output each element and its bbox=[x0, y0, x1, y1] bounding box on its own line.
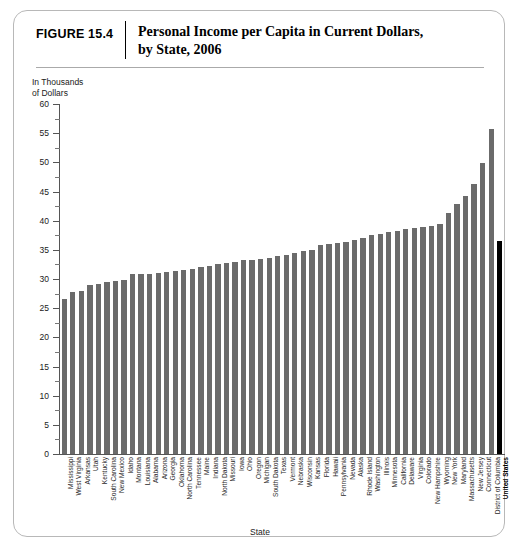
bar bbox=[463, 196, 468, 454]
bar bbox=[378, 234, 383, 455]
x-tick-label: Oklahoma bbox=[178, 457, 185, 487]
x-tick-label: Kentucky bbox=[101, 457, 108, 484]
bar bbox=[309, 250, 314, 454]
bar bbox=[497, 241, 502, 454]
y-tick-major bbox=[53, 308, 60, 309]
bar bbox=[403, 229, 408, 454]
bar bbox=[335, 243, 340, 454]
y-tick-major bbox=[53, 425, 60, 426]
x-tick-label: Colorado bbox=[425, 457, 432, 484]
bar bbox=[181, 270, 186, 454]
y-tick-label: 5 bbox=[27, 420, 49, 430]
x-tick-label: California bbox=[400, 457, 407, 485]
x-tick-label: Wisconsin bbox=[306, 457, 313, 487]
x-tick-label: Kansas bbox=[314, 457, 321, 479]
x-tick-label: West Virginia bbox=[75, 457, 82, 496]
bar-chart-plot: 051015202530354045505560 MississippiWest… bbox=[14, 11, 504, 536]
x-tick-label: Nevada bbox=[349, 457, 356, 480]
bar bbox=[62, 299, 67, 454]
bar bbox=[138, 274, 143, 454]
bar bbox=[130, 274, 135, 454]
y-tick-major bbox=[53, 221, 60, 222]
x-tick-label: Maine bbox=[203, 457, 210, 475]
bar bbox=[489, 129, 494, 455]
x-tick-label: Iowa bbox=[238, 457, 245, 471]
bar bbox=[207, 266, 212, 454]
x-tick-label: Pennsylvania bbox=[340, 457, 347, 496]
bar bbox=[429, 226, 434, 454]
x-tick-label: Mississippi bbox=[67, 457, 74, 489]
bar bbox=[471, 184, 476, 454]
bar bbox=[147, 274, 152, 454]
bar bbox=[113, 281, 118, 454]
bar bbox=[318, 245, 323, 454]
x-tick-label: North Carolina bbox=[186, 457, 193, 500]
bar bbox=[437, 224, 442, 454]
bar bbox=[454, 204, 459, 454]
x-tick-label: Missouri bbox=[229, 457, 236, 482]
y-tick-label: 25 bbox=[27, 303, 49, 313]
x-tick-label: Virginia bbox=[417, 457, 424, 479]
bar bbox=[249, 260, 254, 454]
x-tick-label: Maryland bbox=[460, 457, 467, 484]
bar bbox=[164, 272, 169, 454]
bar bbox=[360, 238, 365, 454]
bars-layer bbox=[60, 104, 504, 454]
x-tick-label: Montana bbox=[135, 457, 142, 483]
figure-card: FIGURE 15.4 Personal Income per Capita i… bbox=[13, 10, 505, 537]
x-tick-label: Washington bbox=[374, 457, 381, 492]
x-tick-label: Oregon bbox=[255, 457, 262, 479]
x-tick-label: Illinois bbox=[383, 457, 390, 475]
x-tick-label: Georgia bbox=[169, 457, 176, 480]
bar bbox=[480, 163, 485, 454]
bar bbox=[215, 264, 220, 454]
bar bbox=[352, 240, 357, 454]
bar bbox=[173, 271, 178, 454]
x-tick-label: Louisiana bbox=[144, 457, 151, 485]
y-tick-label: 60 bbox=[27, 99, 49, 109]
y-tick-label: 50 bbox=[27, 157, 49, 167]
y-tick-major bbox=[53, 133, 60, 134]
y-tick-major bbox=[53, 337, 60, 338]
x-axis-title: State bbox=[14, 527, 506, 537]
bar bbox=[190, 269, 195, 455]
bar bbox=[241, 260, 246, 454]
bar bbox=[343, 242, 348, 454]
x-tick-label: Alaska bbox=[357, 457, 364, 477]
bar bbox=[420, 227, 425, 455]
bar bbox=[369, 235, 374, 454]
y-tick-major bbox=[53, 367, 60, 368]
bar bbox=[386, 232, 391, 454]
x-tick-label: Texas bbox=[280, 457, 287, 474]
y-tick-major bbox=[53, 250, 60, 251]
x-tick-label: Ohio bbox=[246, 457, 253, 471]
bar bbox=[104, 282, 109, 454]
y-tick-label: 35 bbox=[27, 245, 49, 255]
x-tick-label: Michigan bbox=[263, 457, 270, 483]
x-tick-label: South Dakota bbox=[272, 457, 279, 497]
x-tick-label: New Hampshire bbox=[434, 457, 441, 504]
x-tick-label: Utah bbox=[92, 457, 99, 471]
y-tick-label: 55 bbox=[27, 128, 49, 138]
y-tick-label: 15 bbox=[27, 362, 49, 372]
x-tick-label: Florida bbox=[323, 457, 330, 477]
x-tick-label: Hawaii bbox=[332, 457, 339, 477]
y-tick-label: 10 bbox=[27, 391, 49, 401]
x-tick-label: Connecticut bbox=[485, 457, 492, 492]
x-tick-label: Alabama bbox=[152, 457, 159, 483]
bar bbox=[198, 267, 203, 454]
bar bbox=[326, 244, 331, 454]
x-tick-label: Arizona bbox=[161, 457, 168, 479]
bar bbox=[96, 284, 101, 454]
x-tick-label: Massachusetts bbox=[468, 457, 475, 501]
y-tick-major bbox=[53, 104, 60, 105]
bar bbox=[224, 263, 229, 454]
x-tick-label: New Jersey bbox=[477, 457, 484, 491]
bar bbox=[292, 253, 297, 454]
x-tick-label: South Carolina bbox=[110, 457, 117, 501]
y-tick-label: 20 bbox=[27, 332, 49, 342]
bar bbox=[70, 292, 75, 454]
x-tick-label: Idaho bbox=[127, 457, 134, 474]
y-tick-label: 45 bbox=[27, 187, 49, 197]
bar bbox=[79, 291, 84, 454]
